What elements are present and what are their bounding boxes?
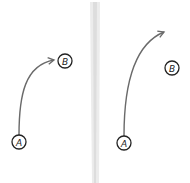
node-a-label: A xyxy=(120,139,127,149)
node-b-label: B xyxy=(62,57,68,67)
diagram-canvas: A B A B xyxy=(0,0,190,183)
node-b-label: B xyxy=(169,64,175,74)
arrow-a-overshoot xyxy=(124,32,164,136)
node-a: A xyxy=(12,135,26,149)
node-b: B xyxy=(58,54,72,68)
node-a: A xyxy=(117,136,131,150)
left-panel: A B xyxy=(12,54,72,149)
node-b: B xyxy=(165,61,179,75)
right-panel: A B xyxy=(117,32,179,150)
divider xyxy=(90,2,100,183)
arrow-a-to-b xyxy=(19,60,54,135)
node-a-label: A xyxy=(15,138,22,148)
